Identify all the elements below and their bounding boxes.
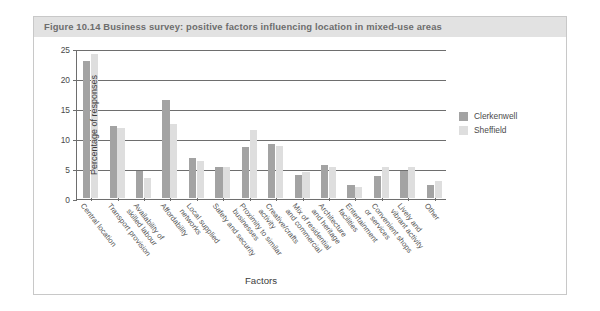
- y-tick-label: 20: [61, 75, 70, 85]
- x-axis-label: Other: [422, 202, 440, 222]
- bar-group: [289, 50, 315, 198]
- x-tick-mark: [144, 198, 145, 201]
- legend-label: Sheffield: [474, 125, 506, 135]
- legend-item: Sheffield: [459, 123, 517, 137]
- bar-clerkenwell: [347, 185, 354, 198]
- x-label-line: Other: [422, 201, 441, 222]
- x-tick-mark: [435, 198, 436, 201]
- x-tick-mark: [276, 198, 277, 201]
- bar-clerkenwell: [268, 144, 275, 198]
- y-tick-mark: [73, 80, 77, 81]
- bar-clerkenwell: [295, 175, 302, 198]
- legend-item: Clerkenwell: [459, 109, 517, 123]
- bar-group: [157, 50, 183, 198]
- y-tick-label: 5: [65, 165, 70, 175]
- bar-sheffield: [197, 161, 204, 198]
- legend-swatch-icon: [459, 126, 468, 135]
- x-tick-mark: [329, 198, 330, 201]
- bar-group: [237, 50, 263, 198]
- y-axis-title: Percentage of responses: [89, 75, 99, 175]
- x-tick-mark: [355, 198, 356, 201]
- bar-group: [395, 50, 421, 198]
- y-tick-mark: [73, 170, 77, 171]
- bar-clerkenwell: [374, 176, 381, 198]
- bar-sheffield: [276, 146, 283, 198]
- figure-caption-bar: Figure 10.14 Business survey: positive f…: [34, 17, 566, 37]
- x-tick-mark: [303, 198, 304, 201]
- bar-sheffield: [117, 128, 124, 198]
- bar-sheffield: [302, 172, 309, 198]
- bar-sheffield: [144, 178, 151, 198]
- y-tick-label: 0: [65, 195, 70, 205]
- bar-clerkenwell: [427, 185, 434, 198]
- bar-sheffield: [250, 130, 257, 198]
- x-tick-mark: [223, 198, 224, 201]
- bar-group: [104, 50, 130, 198]
- chart-plot-area: 0510152025: [76, 50, 446, 200]
- figure-screenshot: Figure 10.14 Business survey: positive f…: [0, 0, 600, 311]
- bar-sheffield: [408, 167, 415, 198]
- bar-sheffield: [382, 167, 389, 198]
- bar-clerkenwell: [321, 165, 328, 198]
- bar-clerkenwell: [136, 171, 143, 198]
- x-tick-mark: [197, 198, 198, 201]
- bar-group: [369, 50, 395, 198]
- bar-group: [422, 50, 448, 198]
- y-tick-label: 10: [61, 135, 70, 145]
- bar-group: [316, 50, 342, 198]
- x-tick-mark: [118, 198, 119, 201]
- x-tick-mark: [408, 198, 409, 201]
- x-tick-mark: [170, 198, 171, 201]
- y-tick-mark: [73, 110, 77, 111]
- figure-container: Figure 10.14 Business survey: positive f…: [33, 16, 567, 295]
- bar-group: [131, 50, 157, 198]
- bar-sheffield: [329, 167, 336, 198]
- bar-group: [342, 50, 368, 198]
- bar-sheffield: [170, 124, 177, 198]
- chart-legend: ClerkenwellSheffield: [459, 109, 517, 137]
- bar-sheffield: [435, 181, 442, 198]
- y-tick-mark: [73, 200, 77, 201]
- bar-sheffield: [223, 167, 230, 198]
- y-tick-mark: [73, 50, 77, 51]
- chart-plot-region: 0510152025 Percentage of responses Centr…: [76, 50, 446, 200]
- y-tick-mark: [73, 140, 77, 141]
- y-tick-label: 15: [61, 105, 70, 115]
- bar-clerkenwell: [242, 147, 249, 198]
- x-tick-mark: [382, 198, 383, 201]
- y-tick-label: 25: [61, 45, 70, 55]
- figure-caption: Figure 10.14 Business survey: positive f…: [44, 21, 442, 32]
- legend-label: Clerkenwell: [474, 111, 517, 121]
- bar-group: [263, 50, 289, 198]
- bar-clerkenwell: [110, 126, 117, 198]
- bars-layer: [78, 50, 446, 198]
- legend-swatch-icon: [459, 112, 468, 121]
- x-axis-title: Factors: [76, 275, 446, 286]
- bar-sheffield: [355, 187, 362, 198]
- x-tick-mark: [91, 198, 92, 201]
- bar-clerkenwell: [215, 167, 222, 198]
- bar-group: [184, 50, 210, 198]
- bar-group: [210, 50, 236, 198]
- x-tick-mark: [250, 198, 251, 201]
- bar-clerkenwell: [162, 100, 169, 198]
- bar-clerkenwell: [189, 158, 196, 198]
- bar-clerkenwell: [400, 171, 407, 198]
